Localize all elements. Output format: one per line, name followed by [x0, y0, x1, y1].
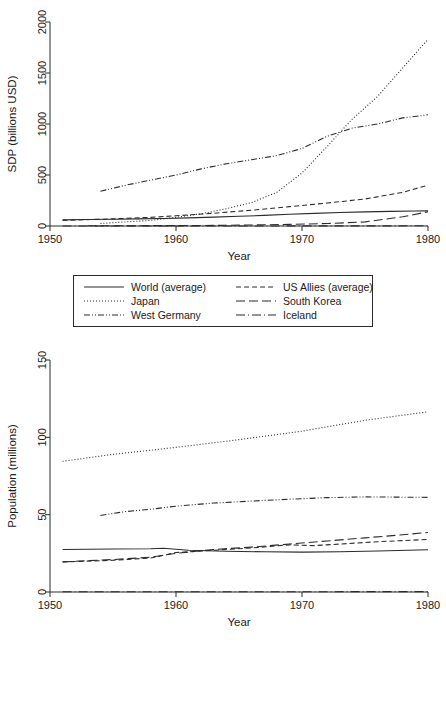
x-tick-label: 1950	[38, 599, 62, 611]
series-line-world-average	[63, 211, 428, 220]
series-line-us-allies-average	[63, 185, 428, 220]
legend-swatch-dash-dot-dot-icon	[83, 310, 125, 320]
x-tick-label: 1960	[164, 599, 188, 611]
gdp-figure: 05001000150020001950196019701980YearSDP …	[0, 0, 446, 340]
legend-entry-south-korea: South Korea	[226, 294, 374, 308]
population-plot: 0501001501950196019701980YearPopulation …	[0, 340, 446, 630]
legend-label: World (average)	[131, 282, 206, 293]
legend-entry-world-average: World (average)	[74, 280, 226, 294]
y-axis-title: Population (millions)	[6, 424, 18, 528]
series-line-japan	[100, 39, 428, 223]
y-tick-label: 100	[36, 428, 48, 446]
y-tick-label: 50	[36, 509, 48, 521]
x-tick-label: 1970	[290, 233, 314, 245]
y-tick-label: 1500	[36, 61, 48, 85]
legend-label: Japan	[131, 296, 160, 307]
series-line-south-korea	[63, 532, 428, 561]
x-axis-title: Year	[227, 250, 250, 262]
series-line-world-average	[63, 548, 428, 552]
x-tick-label: 1970	[290, 599, 314, 611]
legend-swatch-dash-dot-icon	[235, 310, 277, 320]
x-tick-label: 1950	[38, 233, 62, 245]
legend-label: South Korea	[283, 296, 341, 307]
legend-swatch-dotted-icon	[83, 296, 125, 306]
series-line-west-germany	[100, 115, 428, 192]
legend-label: West Germany	[131, 310, 201, 321]
legend-swatch-short-dash-icon	[235, 282, 277, 292]
population-figure: 0501001501950196019701980YearPopulation …	[0, 340, 446, 708]
y-tick-label: 150	[36, 351, 48, 369]
y-tick-label: 2000	[36, 10, 48, 34]
x-axis-title: Year	[227, 616, 250, 628]
legend-entry-west-germany: West Germany	[74, 308, 226, 322]
series-line-west-germany	[100, 497, 428, 516]
legend-entry-japan: Japan	[74, 294, 226, 308]
y-tick-label: 1000	[36, 112, 48, 136]
legend-label: US Allies (average)	[283, 282, 373, 293]
legend-label: Iceland	[283, 310, 317, 321]
x-tick-label: 1960	[164, 233, 188, 245]
legend-entry-iceland: Iceland	[226, 308, 374, 322]
x-tick-label: 1980	[416, 599, 440, 611]
legend-swatch-solid-icon	[83, 282, 125, 292]
y-axis-title: SDP (billions USD)	[6, 75, 18, 172]
legend-entry-us-allies-average: US Allies (average)	[226, 280, 374, 294]
legend-swatch-long-dash-icon	[235, 296, 277, 306]
y-tick-label: 0	[36, 589, 48, 595]
x-tick-label: 1980	[416, 233, 440, 245]
y-tick-label: 0	[36, 223, 48, 229]
gdp-legend: World (average)US Allies (average)JapanS…	[73, 275, 373, 327]
series-line-japan	[63, 412, 428, 462]
y-tick-label: 500	[36, 166, 48, 184]
gdp-plot: 05001000150020001950196019701980YearSDP …	[0, 0, 446, 275]
